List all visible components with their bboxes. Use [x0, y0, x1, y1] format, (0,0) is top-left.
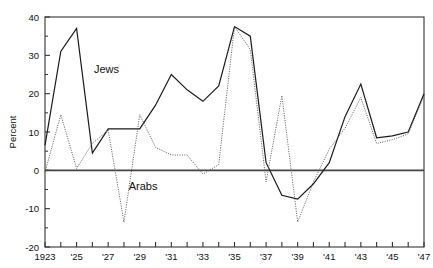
y-tick-label: 0 — [34, 165, 39, 176]
x-tick-label: 1923 — [34, 251, 55, 262]
series-line-jews — [45, 27, 424, 200]
chart-container: -20-100102030401923'25'27'29'31'33'35'37… — [0, 0, 433, 268]
x-tick-label: '37 — [260, 251, 272, 262]
x-tick-label: '39 — [291, 251, 303, 262]
series-line-arabs — [45, 27, 424, 223]
x-tick-label: '33 — [197, 251, 209, 262]
x-tick-label: '35 — [228, 251, 240, 262]
series-label-jews: Jews — [94, 63, 120, 75]
x-tick-label: '29 — [134, 251, 146, 262]
y-tick-label: 10 — [28, 127, 39, 138]
y-tick-label: 40 — [28, 12, 39, 23]
series-label-arabs: Arabs — [129, 180, 158, 192]
y-axis-title: Percent — [7, 115, 18, 148]
plot-frame — [45, 17, 424, 247]
x-tick-label: '27 — [102, 251, 114, 262]
x-tick-label: '45 — [386, 251, 398, 262]
x-tick-label: '41 — [323, 251, 335, 262]
y-tick-label: 20 — [28, 88, 39, 99]
x-tick-label: '25 — [70, 251, 82, 262]
x-tick-label: '31 — [165, 251, 177, 262]
y-tick-label: 30 — [28, 50, 39, 61]
x-tick-label: '43 — [355, 251, 367, 262]
y-tick-label: -10 — [25, 203, 39, 214]
line-chart: -20-100102030401923'25'27'29'31'33'35'37… — [0, 0, 433, 268]
x-tick-label: '47 — [418, 251, 430, 262]
